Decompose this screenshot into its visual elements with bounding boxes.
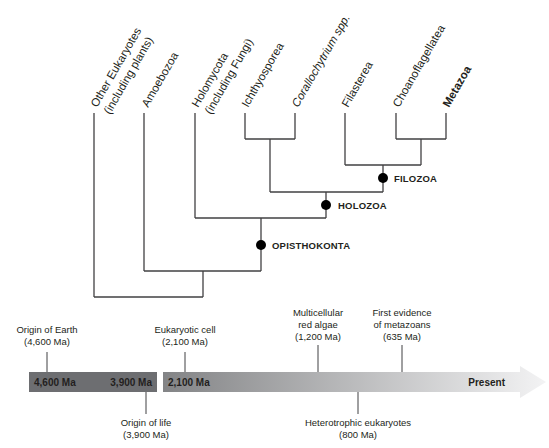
leaf-label-choanoflagellatea: Choanoflagellatea — [390, 22, 447, 109]
timeline: 4,600 Ma 3,900 Ma 2,100 Ma Present Origi… — [16, 307, 546, 440]
svg-text:(635 Ma): (635 Ma) — [383, 331, 421, 342]
node-opisthokonta — [256, 240, 266, 250]
phylogenetic-tree — [94, 113, 446, 297]
event-first-metazoans: First evidence of metazoans (635 Ma) — [372, 307, 431, 342]
svg-text:First evidence: First evidence — [372, 307, 431, 318]
leaf-label-corallochytrium: Corallochytrium spp. — [289, 12, 352, 109]
event-origin-of-earth: Origin of Earth (4,600 Ma) — [16, 324, 77, 347]
svg-text:Multicellular: Multicellular — [293, 307, 343, 318]
event-multicellular-red-algae: Multicellular red algae (1,200 Ma) — [293, 307, 343, 342]
leaf-label-metazoa: Metazoa — [440, 63, 473, 109]
event-origin-of-life: Origin of life (3,900 Ma) — [121, 417, 172, 440]
svg-text:Heterotrophic eukaryotes: Heterotrophic eukaryotes — [305, 417, 411, 428]
bar-label-4600: 4,600 Ma — [34, 377, 76, 388]
leaf-label-amoebozoa: Amoebozoa — [139, 49, 180, 109]
svg-text:(2,100 Ma): (2,100 Ma) — [162, 336, 208, 347]
svg-text:red algae: red algae — [298, 319, 338, 330]
svg-text:(4,600 Ma): (4,600 Ma) — [24, 336, 70, 347]
node-filozoa — [378, 173, 388, 183]
bar-label-2100: 2,100 Ma — [168, 377, 210, 388]
svg-text:(800 Ma): (800 Ma) — [339, 429, 377, 440]
svg-text:(3,900 Ma): (3,900 Ma) — [123, 429, 169, 440]
svg-text:Origin of Earth: Origin of Earth — [16, 324, 77, 335]
clade-label-filozoa: FILOZOA — [394, 173, 437, 184]
bar-label-present: Present — [468, 377, 505, 388]
clade-label-opisthokonta: OPISTHOKONTA — [272, 240, 350, 251]
node-holozoa — [321, 200, 331, 210]
svg-text:Eukaryotic cell: Eukaryotic cell — [154, 324, 215, 335]
svg-text:(1,200 Ma): (1,200 Ma) — [295, 331, 341, 342]
clade-label-holozoa: HOLOZOA — [338, 200, 387, 211]
event-heterotrophic-eukaryotes: Heterotrophic eukaryotes (800 Ma) — [305, 417, 411, 440]
bar-label-3900: 3,900 Ma — [110, 377, 152, 388]
leaf-label-filasterea: Filasterea — [339, 59, 375, 109]
phylogeny-timeline-figure: FILOZOA HOLOZOA OPISTHOKONTA Other Eukar… — [0, 0, 549, 448]
event-eukaryotic-cell: Eukaryotic cell (2,100 Ma) — [154, 324, 215, 347]
svg-text:Origin of life: Origin of life — [121, 417, 172, 428]
svg-text:of metazoans: of metazoans — [373, 319, 430, 330]
